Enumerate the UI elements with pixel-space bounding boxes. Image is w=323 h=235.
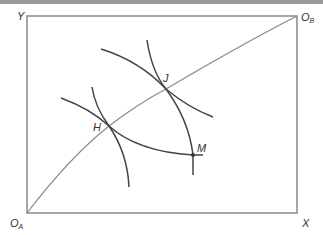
point-m-label: M bbox=[197, 143, 206, 154]
indifference-curve-j-a bbox=[101, 49, 213, 117]
origin-b-main: O bbox=[301, 11, 310, 23]
box-frame bbox=[27, 16, 297, 213]
edgeworth-box-diagram bbox=[0, 0, 323, 235]
origin-a-label: OA bbox=[10, 218, 23, 230]
contract-curve bbox=[27, 16, 297, 213]
origin-a-main: O bbox=[10, 217, 19, 229]
x-axis-label: X bbox=[302, 218, 309, 229]
point-h-label: H bbox=[93, 122, 101, 133]
origin-b-label: OB bbox=[301, 12, 314, 24]
y-axis-label: Y bbox=[17, 11, 24, 22]
origin-b-sub: B bbox=[310, 17, 315, 24]
point-m-dot bbox=[191, 153, 195, 157]
origin-a-sub: A bbox=[19, 223, 24, 230]
indifference-curve-h-a bbox=[61, 98, 203, 155]
point-j-label: J bbox=[163, 73, 169, 84]
